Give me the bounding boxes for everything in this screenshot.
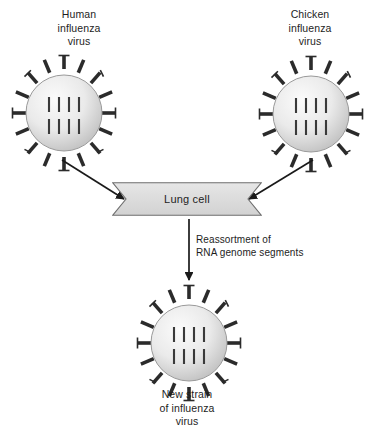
virus-envelope [26,75,102,151]
lung-cell-banner: Lung cell [112,182,262,216]
virus-envelope [273,76,349,152]
reassortment-annotation: Reassortment of RNA genome segments [196,234,328,259]
diagram-canvas: Human influenza virus [0,0,367,434]
new-strain-label: New strain of influenza virus [128,388,246,429]
virus-envelope [151,305,227,381]
new-strain-influenza-virus [139,287,239,387]
arrow-lung-cell-to-new-virus [182,218,196,286]
chicken-influenza-virus [261,58,361,158]
chicken-virus-label: Chicken influenza virus [258,8,362,49]
human-influenza-virus [14,57,114,157]
human-virus-label: Human influenza virus [24,8,134,49]
lung-cell-label: Lung cell [112,182,262,216]
